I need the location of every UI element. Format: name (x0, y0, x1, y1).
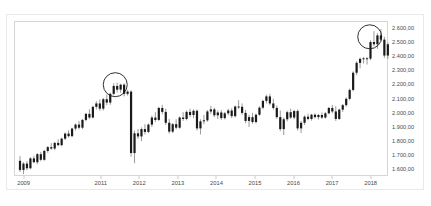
candle-body (74, 125, 76, 129)
candle-body (376, 35, 378, 44)
candle-body (213, 109, 215, 115)
candle-body (349, 90, 351, 99)
candle-body (40, 154, 42, 160)
candle-body (192, 111, 194, 115)
y-axis-tick-label: 1.700,00 (392, 152, 430, 158)
candle-body (279, 117, 281, 129)
candle-body (116, 86, 118, 90)
candle-body (57, 143, 59, 145)
candlestick-chart: 2.600,002.500,002.400,002.300,002.200,00… (0, 0, 431, 206)
candle-body (126, 92, 128, 94)
candle-body (286, 112, 288, 119)
candle-body (328, 108, 330, 113)
candle-body (144, 129, 146, 132)
candle-body (210, 109, 212, 111)
candle-body (224, 113, 226, 118)
y-axis-labels: 2.600,002.500,002.400,002.300,002.200,00… (392, 21, 431, 176)
candle-body (241, 107, 243, 113)
candle-body (106, 99, 108, 102)
candle-body (81, 120, 83, 128)
candle-body (317, 115, 319, 117)
y-axis-tick-label: 2.200,00 (392, 81, 430, 87)
candle-body (345, 99, 347, 105)
candle-body (335, 111, 337, 118)
candle-body (244, 113, 246, 121)
y-axis-tick-label: 2.600,00 (392, 25, 430, 31)
candle-body (359, 59, 361, 63)
candle-body (19, 161, 21, 170)
candle-body (71, 129, 73, 137)
candle-body (272, 103, 274, 108)
candle-body (366, 58, 368, 59)
candle-body (67, 134, 69, 137)
candle-body (258, 108, 260, 115)
candle-body (251, 117, 253, 122)
x-axis-tick-mark (216, 176, 217, 179)
candle-body (140, 129, 142, 136)
candle-body (293, 111, 295, 117)
candle-body (231, 110, 233, 116)
candle-body (182, 118, 184, 119)
y-axis-tick-label: 1.600,00 (392, 166, 430, 172)
x-axis-tick-label: 2012 (133, 180, 146, 187)
annotations (103, 25, 381, 97)
candle-body (297, 111, 299, 128)
candle-body (269, 96, 271, 103)
x-axis-tick-mark (100, 176, 101, 179)
x-axis-tick-mark (370, 176, 371, 179)
candle-body (168, 123, 170, 132)
candle-body (265, 96, 267, 101)
candle-body (99, 103, 101, 108)
candle-body (206, 111, 208, 120)
candle-body (387, 44, 389, 55)
candle-body (161, 108, 163, 112)
candle-body (303, 117, 305, 123)
candle-body (248, 117, 250, 121)
candle-body (227, 110, 229, 113)
candle-body (50, 147, 52, 148)
candle-body (165, 112, 167, 123)
candle-body (185, 112, 187, 119)
candle-body (196, 111, 198, 129)
candle-body (220, 112, 222, 118)
candle-body (47, 147, 49, 151)
candle-body (179, 118, 181, 128)
candle-body (262, 101, 264, 108)
candle-body (290, 112, 292, 117)
candle-body (133, 133, 135, 153)
y-axis-tick-label: 2.100,00 (392, 96, 430, 102)
candle-body (189, 112, 191, 115)
x-axis-tick-mark (332, 176, 333, 179)
candle-body (362, 58, 364, 59)
candle-body (102, 99, 104, 108)
x-axis-labels: 200920112012201320142015201620172018 (14, 178, 388, 190)
candle-body (33, 158, 35, 162)
candle-body (92, 107, 94, 118)
candle-body (22, 164, 24, 170)
candle-body (276, 108, 278, 117)
candle-body (95, 103, 97, 106)
y-axis-tick-label: 2.300,00 (392, 67, 430, 73)
candle-body (61, 139, 63, 145)
candle-body (130, 92, 132, 153)
y-axis-tick-label: 2.500,00 (392, 39, 430, 45)
candle-body (36, 154, 38, 162)
candle-body (154, 118, 156, 120)
candle-body (352, 73, 354, 90)
x-axis-tick-mark (177, 176, 178, 179)
y-axis-tick-label: 2.400,00 (392, 53, 430, 59)
y-axis-tick-label: 1.900,00 (392, 124, 430, 130)
candle-body (310, 115, 312, 119)
candle-body (54, 143, 56, 149)
candle-body (356, 63, 358, 73)
y-axis-tick-label: 2.000,00 (392, 110, 430, 116)
candle-body (199, 121, 201, 128)
candle-body (373, 42, 375, 44)
candle-body (217, 112, 219, 115)
candle-body (172, 124, 174, 131)
candle-body (120, 85, 122, 90)
candle-body (321, 115, 323, 118)
candle-body (300, 123, 302, 129)
candle-body (331, 108, 333, 112)
candle-body (314, 115, 316, 117)
